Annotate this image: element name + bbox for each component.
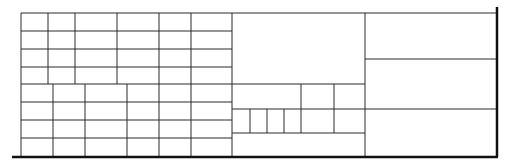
grid-diagram bbox=[0, 0, 510, 167]
